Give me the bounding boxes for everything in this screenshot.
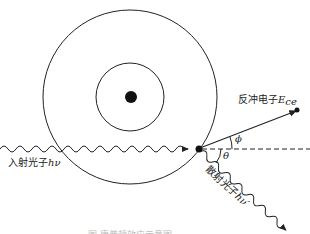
theta-label: θ <box>223 150 229 161</box>
recoil-electron-label: 反冲电子Ece <box>238 93 297 107</box>
recoil-electron-dot <box>295 108 300 113</box>
nucleus <box>125 91 137 103</box>
scattered-photon-label: 散射光子hν′ <box>204 163 253 210</box>
phi-angle-arc <box>230 137 232 149</box>
compton-diagram: 入射光子hν 反冲电子Ece ϕ θ 散射光子hν′ 图 康普顿效应示意图 <box>0 0 310 234</box>
phi-label: ϕ <box>235 133 242 144</box>
scattered-photon-wave <box>199 149 288 232</box>
diagram-canvas: 入射光子hν 反冲电子Ece ϕ θ 散射光子hν′ 图 康普顿效应示意图 <box>0 0 310 234</box>
electron-dot <box>196 146 203 153</box>
figure-caption: 图 康普顿效应示意图 <box>88 229 172 234</box>
incident-photon-label: 入射光子hν <box>8 156 61 168</box>
theta-angle-arc <box>216 149 221 163</box>
incident-photon-wave <box>0 146 188 152</box>
